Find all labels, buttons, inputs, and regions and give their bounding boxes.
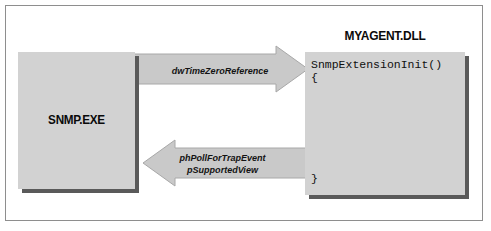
arrow-label-dwtimezeroreference: dwTimeZeroReference	[158, 65, 282, 76]
box-shadow-bottom	[309, 195, 469, 199]
box-shadow-right	[465, 56, 469, 199]
myagent-dll-title: MYAGENT.DLL	[311, 28, 458, 43]
arrow-label-return-params: phPollForTrapEvent pSupportedView	[154, 152, 292, 175]
diagram-canvas: SNMP.EXE MYAGENT.DLL SnmpExtensionInit()…	[0, 0, 491, 231]
arrow-label-phpollfortrapevent: phPollForTrapEvent	[154, 152, 292, 164]
arrow-label-psupportedview: pSupportedView	[154, 164, 292, 176]
snmp-exe-box: SNMP.EXE	[18, 52, 135, 189]
myagent-dll-box	[305, 52, 465, 195]
code-function-signature: SnmpExtensionInit()	[311, 58, 442, 71]
snmp-exe-label: SNMP.EXE	[24, 112, 129, 127]
code-open-brace: {	[311, 71, 318, 84]
box-shadow-right	[135, 56, 139, 193]
code-close-brace: }	[311, 172, 318, 185]
box-shadow-bottom	[22, 189, 139, 193]
